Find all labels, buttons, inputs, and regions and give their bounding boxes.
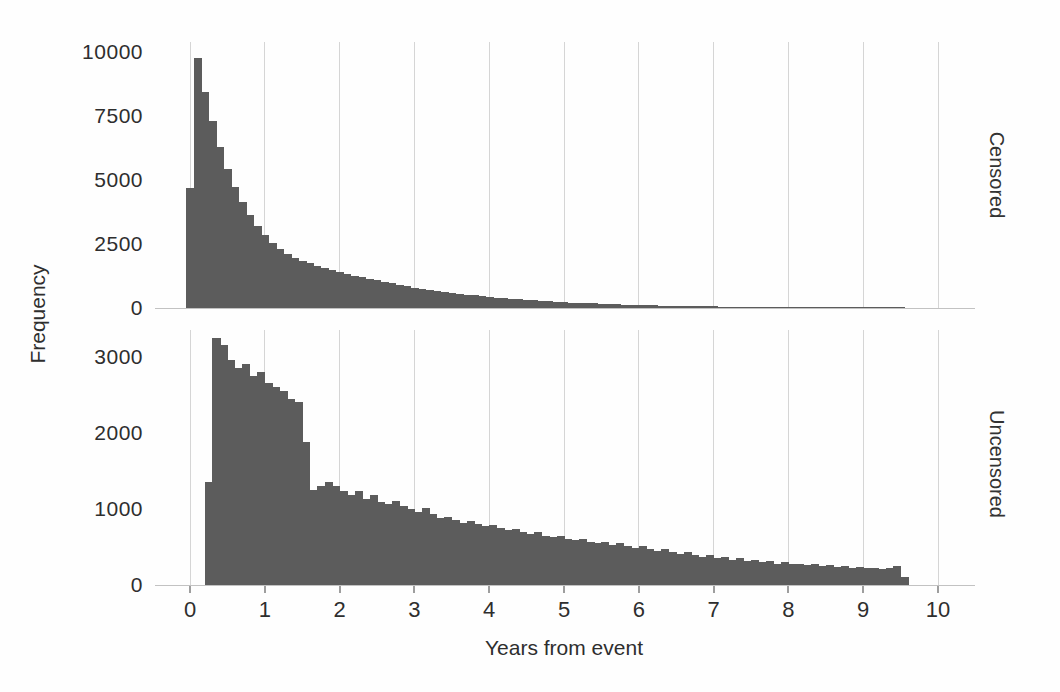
x-tick-mark: [787, 586, 789, 593]
x-tick-mark: [413, 586, 415, 593]
gridline: [713, 330, 714, 585]
y-tick-label: 1000: [23, 496, 143, 522]
x-tick-label: 2: [318, 597, 362, 623]
x-tick-mark: [713, 586, 715, 593]
x-tick-label: 8: [766, 597, 810, 623]
x-axis: 012345678910: [155, 585, 975, 633]
x-tick-mark: [189, 586, 191, 593]
x-axis-title: Years from event: [485, 636, 643, 660]
histogram-bar: [901, 577, 909, 585]
y-tick-label: 5000: [23, 167, 143, 193]
x-tick-label: 9: [841, 597, 885, 623]
y-tick-label: 2000: [23, 420, 143, 446]
x-tick-label: 10: [916, 597, 960, 623]
y-tick-label: 0: [23, 572, 143, 598]
gridline: [638, 42, 639, 308]
gridline: [863, 42, 864, 308]
x-tick-label: 0: [168, 597, 212, 623]
histogram-figure: Frequency 025005000750010000 01000200030…: [0, 0, 1060, 692]
x-tick-label: 7: [692, 597, 736, 623]
y-tick-label: 7500: [23, 103, 143, 129]
gridline: [190, 330, 191, 585]
x-tick-label: 1: [243, 597, 287, 623]
x-tick-mark: [264, 586, 266, 593]
panel-censored: [155, 42, 975, 309]
y-tick-label: 2500: [23, 231, 143, 257]
gridline: [564, 42, 565, 308]
y-tick-label: 3000: [23, 344, 143, 370]
gridline: [339, 42, 340, 308]
x-tick-mark: [638, 586, 640, 593]
y-tick-labels-uncensored: 0100020003000: [0, 330, 143, 585]
x-tick-mark: [488, 586, 490, 593]
gridline: [788, 42, 789, 308]
gridline: [863, 330, 864, 585]
gridline: [489, 42, 490, 308]
gridline: [414, 42, 415, 308]
x-tick-mark: [563, 586, 565, 593]
gridline: [788, 330, 789, 585]
gridline: [713, 42, 714, 308]
panel-uncensored: [155, 330, 975, 586]
gridline: [938, 330, 939, 585]
x-tick-mark: [339, 586, 341, 593]
histogram-bar: [897, 307, 905, 308]
x-tick-mark: [862, 586, 864, 593]
x-tick-label: 3: [392, 597, 436, 623]
y-tick-label: 10000: [23, 39, 143, 65]
facet-label-censored: Censored: [985, 132, 1008, 219]
y-tick-label: 0: [23, 295, 143, 321]
x-tick-label: 4: [467, 597, 511, 623]
x-tick-label: 5: [542, 597, 586, 623]
gridline: [938, 42, 939, 308]
x-tick-mark: [937, 586, 939, 593]
y-tick-labels-censored: 025005000750010000: [0, 42, 143, 308]
facet-label-uncensored: Uncensored: [985, 410, 1008, 518]
x-tick-label: 6: [617, 597, 661, 623]
